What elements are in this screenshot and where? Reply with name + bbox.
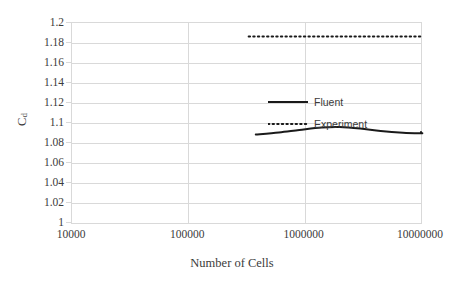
y-axis-tick-label: 1.04 — [0, 176, 64, 188]
x-axis-tick-label: 1000000 — [259, 228, 349, 240]
x-axis-tick-label: 10000 — [26, 228, 116, 240]
legend-label: Fluent — [314, 97, 343, 108]
x-axis-title: Number of Cells — [0, 256, 464, 271]
y-axis-title-base: C — [15, 118, 29, 126]
legend-item-experiment[interactable]: Experiment — [268, 113, 398, 135]
y-axis-tick-label: 1.18 — [0, 36, 64, 48]
legend-label: Experiment — [314, 119, 367, 130]
y-axis-tick-label: 1.12 — [0, 96, 64, 108]
y-axis-title: Cd — [15, 100, 30, 140]
plot-area: FluentExperiment — [71, 22, 422, 224]
x-axis-tick-label: 10000000 — [375, 228, 464, 240]
y-axis-tick-label: 1.14 — [0, 76, 64, 88]
y-axis-tick-label: 1 — [0, 216, 64, 228]
y-axis-title-subscript: d — [19, 113, 29, 118]
y-axis-tick-label: 1.2 — [0, 16, 64, 28]
chart-legend: FluentExperiment — [268, 91, 398, 135]
legend-swatch-dotted-icon — [268, 119, 308, 129]
x-axis-tick-label: 100000 — [142, 228, 232, 240]
y-axis-tick-label: 1.1 — [0, 116, 64, 128]
legend-item-fluent[interactable]: Fluent — [268, 91, 398, 113]
legend-swatch-solid-icon — [268, 97, 308, 107]
y-axis-tick-label: 1.08 — [0, 136, 64, 148]
y-axis-tick-label: 1.06 — [0, 156, 64, 168]
y-axis-tick-label: 1.16 — [0, 56, 64, 68]
y-axis-tick-label: 1.02 — [0, 196, 64, 208]
drag-coefficient-mesh-convergence-chart: 1.21.181.161.141.121.11.081.061.041.021 … — [0, 0, 464, 296]
